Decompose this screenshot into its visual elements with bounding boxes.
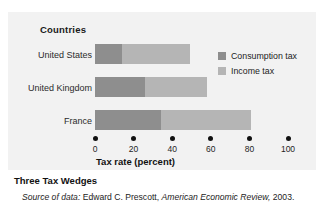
- figure-caption-title: Three Tax Wedges: [14, 175, 97, 186]
- legend-label: Consumption tax: [231, 51, 297, 61]
- page-edge: [0, 0, 8, 215]
- category-label-text: United Kingdom: [28, 83, 92, 93]
- category-label-united-states: United States: [12, 50, 92, 62]
- source-publication: American Economic Review,: [162, 192, 271, 202]
- bar-segment-consumption-tax: [95, 44, 122, 64]
- bar-segment-consumption-tax: [95, 77, 145, 97]
- x-axis-tick-label: 80: [236, 144, 262, 154]
- bar-segment-income-tax: [145, 77, 207, 97]
- category-label-text: France: [64, 116, 92, 126]
- legend-swatch-income-tax: [218, 67, 226, 75]
- legend: Consumption tax Income tax: [218, 49, 297, 79]
- legend-label: Income tax: [231, 66, 274, 76]
- category-label-united-kingdom: United Kingdom: [12, 83, 92, 95]
- x-axis-tick-label: 100: [275, 144, 301, 154]
- x-axis-tick-label: 40: [159, 144, 185, 154]
- source-year: 2003.: [273, 192, 295, 202]
- x-axis-tick-label: 20: [121, 144, 147, 154]
- source-author: Edward C. Prescott,: [83, 192, 159, 202]
- y-axis-title: Countries: [40, 24, 86, 35]
- x-axis-tick-dot: [286, 136, 291, 141]
- bar-segment-income-tax: [122, 44, 190, 64]
- x-axis-tick-label: 60: [198, 144, 224, 154]
- legend-item-income-tax: Income tax: [218, 64, 297, 77]
- x-axis-tick-dot: [247, 136, 252, 141]
- source-label: Source of data:: [22, 192, 80, 202]
- bar-segment-consumption-tax: [95, 110, 161, 130]
- bar-france: [95, 110, 251, 130]
- legend-swatch-consumption-tax: [218, 52, 226, 60]
- bar-united-kingdom: [95, 77, 207, 97]
- x-axis-tick-dot: [170, 136, 175, 141]
- x-axis-tick-label: 0: [82, 144, 108, 154]
- figure-source-line: Source of data: Edward C. Prescott, Amer…: [22, 192, 294, 202]
- category-label-france: France: [12, 116, 92, 128]
- legend-item-consumption-tax: Consumption tax: [218, 49, 297, 62]
- category-label-text: United States: [38, 50, 92, 60]
- bar-united-states: [95, 44, 190, 64]
- x-axis-title: Tax rate (percent): [96, 156, 175, 167]
- x-axis-tick-dot: [93, 136, 98, 141]
- chart-figure: Countries United States United Kingdom F…: [0, 0, 324, 215]
- bar-segment-income-tax: [161, 110, 252, 130]
